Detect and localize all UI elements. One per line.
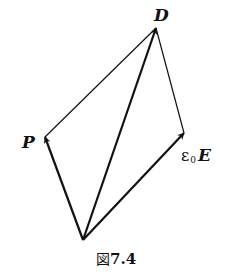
vector-p-arrow [45,137,83,240]
figure-caption: 図7.4 [96,252,136,267]
label-epsilon0-e: ε0E [181,147,211,165]
line-e-to-d [156,28,184,133]
line-p-to-d [45,28,156,137]
figure-7-4: D P ε0E 図7.4 [0,0,230,280]
vector-d-arrow [83,28,156,240]
label-epsilon: ε [181,146,189,165]
vector-e-arrow [83,133,184,240]
label-p: P [22,134,35,151]
label-subscript-zero: 0 [190,155,196,165]
caption-number: 7.4 [110,250,136,268]
label-d: D [154,7,169,24]
caption-prefix: 図 [96,251,110,267]
label-e: E [198,145,211,165]
